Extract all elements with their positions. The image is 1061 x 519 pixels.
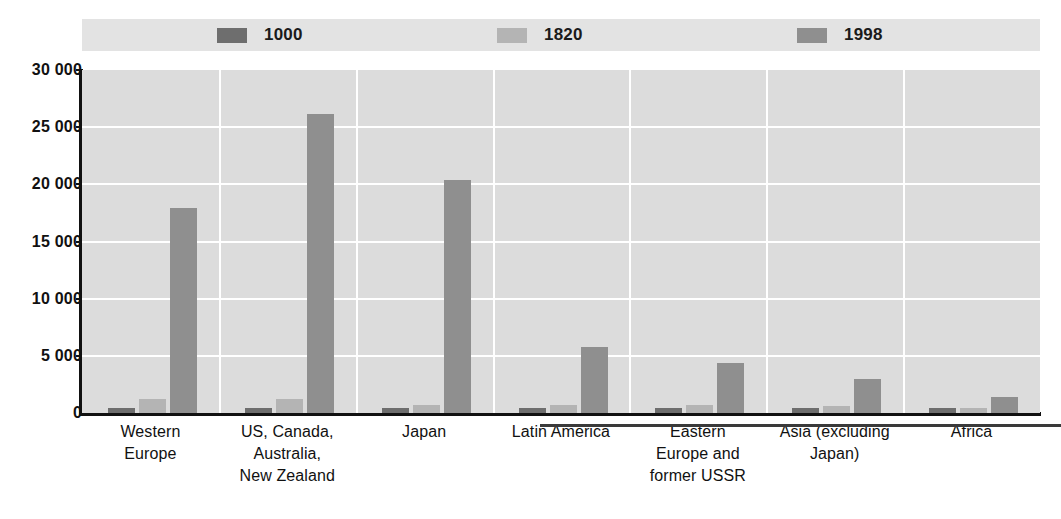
bar-1820-eastern-europe-and-former-ussr <box>686 405 713 413</box>
y-axis-tick-label: 25 000 <box>8 118 82 136</box>
legend-swatch-1000 <box>217 28 247 43</box>
x-axis-label-line: former USSR <box>629 465 766 487</box>
legend-swatch-1998 <box>797 28 827 43</box>
legend-swatch-1820 <box>497 28 527 43</box>
x-axis-label-japan: Japan <box>356 421 493 443</box>
gridline <box>82 355 1040 357</box>
plot-area <box>82 70 1040 413</box>
bottom-rule <box>540 424 1061 427</box>
bar-1998-japan <box>444 180 471 413</box>
x-axis-label-line: Western <box>82 421 219 443</box>
y-axis-tick-label: 20 000 <box>8 175 82 193</box>
bar-1000-africa <box>929 408 956 413</box>
bar-1000-eastern-europe-and-former-ussr <box>655 408 682 413</box>
bar-1998-western-europe <box>170 208 197 413</box>
category-separator <box>219 70 221 413</box>
x-axis-label-line: Europe and <box>629 443 766 465</box>
legend-item-1820[interactable]: 1820 <box>497 19 583 51</box>
x-axis-label-line: Japan <box>356 421 493 443</box>
chart-legend: 1000 1820 1998 <box>82 19 1040 51</box>
category-separator <box>766 70 768 413</box>
y-axis-tick-label: 10 000 <box>8 290 82 308</box>
bar-1820-asia-excluding-japan <box>823 406 850 413</box>
bar-1000-latin-america <box>519 408 546 413</box>
legend-label-1998: 1998 <box>844 25 883 45</box>
bar-1000-asia-excluding-japan <box>792 408 819 413</box>
bar-1820-japan <box>413 405 440 413</box>
gridline <box>82 126 1040 128</box>
y-axis-tick-label: 0 <box>8 404 82 422</box>
bar-1998-asia-excluding-japan <box>854 379 881 413</box>
bar-1820-latin-america <box>550 405 577 413</box>
y-axis-tick-label: 30 000 <box>8 61 82 79</box>
gridline <box>82 298 1040 300</box>
gridline <box>82 183 1040 185</box>
y-axis-tick-label: 15 000 <box>8 233 82 251</box>
category-separator <box>629 70 631 413</box>
x-axis-label-line: Australia, <box>219 443 356 465</box>
category-separator <box>903 70 905 413</box>
category-separator <box>493 70 495 413</box>
bar-1998-us-canada-australia-new-zealand <box>307 114 334 413</box>
x-axis-label-eastern-europe-and-former-ussr: EasternEurope andformer USSR <box>629 421 766 487</box>
bar-1820-us-canada-australia-new-zealand <box>276 399 303 413</box>
bar-1998-eastern-europe-and-former-ussr <box>717 363 744 413</box>
x-axis-label-western-europe: WesternEurope <box>82 421 219 465</box>
bar-1820-africa <box>960 408 987 413</box>
y-axis-tick-label: 5 000 <box>8 347 82 365</box>
x-axis-label-line: New Zealand <box>219 465 356 487</box>
x-axis-label-line: Japan) <box>766 443 903 465</box>
legend-item-1000[interactable]: 1000 <box>217 19 303 51</box>
chart-title-remnant <box>0 0 1061 13</box>
x-axis-category-labels: WesternEuropeUS, Canada,Australia,New Ze… <box>82 421 1040 506</box>
bar-1998-latin-america <box>581 347 608 413</box>
bar-1820-western-europe <box>139 399 166 413</box>
x-axis-label-us-canada-australia-new-zealand: US, Canada,Australia,New Zealand <box>219 421 356 487</box>
gridline <box>82 241 1040 243</box>
legend-label-1820: 1820 <box>544 25 583 45</box>
x-axis-label-line: US, Canada, <box>219 421 356 443</box>
legend-label-1000: 1000 <box>264 25 303 45</box>
bar-1000-japan <box>382 408 409 413</box>
y-axis: 05 00010 00015 00020 00025 00030 000 <box>0 70 82 413</box>
legend-item-1998[interactable]: 1998 <box>797 19 883 51</box>
bar-1000-us-canada-australia-new-zealand <box>245 408 272 413</box>
bar-1998-africa <box>991 397 1018 413</box>
bar-1000-western-europe <box>108 408 135 413</box>
x-axis-label-line: Europe <box>82 443 219 465</box>
category-separator <box>356 70 358 413</box>
chart-figure: 1000 1820 1998 05 00010 00015 00020 0002… <box>0 0 1061 519</box>
x-axis-label-asia-excluding-japan: Asia (excludingJapan) <box>766 421 903 465</box>
